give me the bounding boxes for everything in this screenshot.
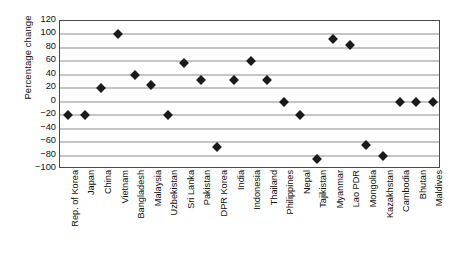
data-point — [246, 56, 256, 66]
x-axis-category-labels: Rep. of KoreaJapanChinaVietnamBangladesh… — [59, 170, 440, 255]
gridline — [60, 128, 439, 129]
percentage-change-scatter-chart: Percentage change 120100806040200−20−40−… — [0, 0, 460, 255]
x-tick-label: India — [237, 170, 246, 190]
data-point — [80, 110, 90, 120]
data-point — [212, 143, 222, 153]
y-tick-label: −80 — [12, 150, 56, 159]
x-tick-label: Cambodia — [402, 170, 411, 212]
x-tick-label: Japan — [87, 170, 96, 195]
y-tick-label: 20 — [12, 83, 56, 92]
x-tick-label: Sri Lanka — [187, 170, 196, 209]
data-point — [163, 110, 173, 120]
x-tick-label: Rep. of Korea — [71, 170, 80, 227]
x-tick-label: DPR Korea — [220, 170, 229, 216]
data-point — [262, 75, 272, 85]
data-point — [96, 83, 106, 93]
y-tick-label: 120 — [12, 15, 56, 24]
data-point — [378, 151, 388, 161]
y-tick-label: 60 — [12, 56, 56, 65]
x-tick-label: Malaysia — [154, 170, 163, 206]
x-tick-label: Bhutan — [419, 170, 428, 199]
data-point — [428, 97, 438, 107]
data-point — [279, 97, 289, 107]
y-tick-label: 40 — [12, 69, 56, 78]
data-point — [395, 97, 405, 107]
x-tick-label: Bangladesh — [137, 170, 146, 219]
data-point — [411, 97, 421, 107]
gridline — [60, 142, 439, 143]
gridline — [60, 74, 439, 75]
data-point — [229, 75, 239, 85]
x-tick-label: Myanmar — [336, 170, 345, 208]
y-tick-label: 0 — [12, 96, 56, 105]
x-tick-label: Pakistan — [203, 170, 212, 205]
data-point — [63, 110, 73, 120]
x-tick-label: Lao PDR — [352, 170, 361, 207]
x-tick-label: Tajikistan — [319, 170, 328, 208]
y-tick-label: −100 — [12, 163, 56, 172]
y-tick-label: −40 — [12, 123, 56, 132]
y-axis-tick-labels: 120100806040200−20−40−60−80−100 — [12, 20, 56, 168]
y-tick-label: −20 — [12, 110, 56, 119]
data-point — [328, 34, 338, 44]
x-tick-label: Uzbekistan — [170, 170, 179, 215]
data-point — [196, 75, 206, 85]
x-tick-label: Nepal — [303, 170, 312, 194]
gridline — [60, 115, 439, 116]
x-tick-label: Mongolia — [369, 170, 378, 207]
y-tick-label: 80 — [12, 42, 56, 51]
data-point — [295, 110, 305, 120]
y-tick-label: 100 — [12, 29, 56, 38]
data-point — [113, 30, 123, 40]
plot-area — [59, 20, 440, 168]
x-tick-label: Indonesia — [253, 170, 262, 210]
data-point — [130, 70, 140, 80]
x-tick-label: China — [104, 170, 113, 194]
gridline — [60, 47, 439, 48]
x-tick-label: Thailand — [270, 170, 279, 205]
y-tick-label: −60 — [12, 136, 56, 145]
x-tick-label: Maldives — [435, 170, 444, 206]
gridline — [60, 88, 439, 89]
x-tick-label: Philippines — [286, 170, 295, 214]
x-tick-label: Vietnam — [121, 170, 130, 204]
gridline — [60, 101, 439, 102]
x-tick-label: Kazakhstan — [386, 170, 395, 218]
